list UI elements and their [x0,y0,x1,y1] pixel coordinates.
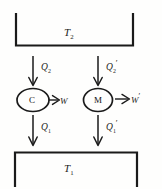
work-label-w: W [60,94,68,106]
heat-flow-label-q2-prime: Q2′ [106,59,118,75]
engine-m-label: M [94,95,102,105]
heat-flow-label-q1: Q1 [41,119,51,135]
work-label-w-prime: W′ [131,93,140,105]
heat-flow-label-q1-prime: Q1′ [106,119,118,135]
lower-reservoir-outline [15,153,137,187]
arrow-w-prime [115,94,130,103]
lower-reservoir-temperature-label: T1 [64,163,74,177]
upper-reservoir-temperature-label: T2 [64,27,74,41]
arrow-q1 [29,115,37,146]
arrow-q1-prime [94,115,102,146]
figure-canvas: T2 T1 C M Q2 Q2′ Q1 Q1′ W W′ [0,0,162,189]
heat-flow-label-q2: Q2 [41,59,51,75]
engine-c-label: C [29,95,35,105]
arrow-q2 [29,56,37,86]
arrow-q2-prime [94,56,102,86]
upper-reservoir-outline [16,14,133,46]
arrow-w [49,96,60,105]
